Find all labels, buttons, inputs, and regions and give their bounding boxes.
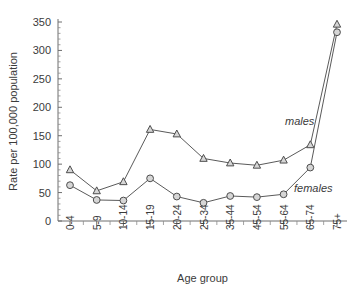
chart-container: 050100150200250300350 0-45-910-1415-1920… <box>0 0 362 289</box>
data-point-females-75+ <box>334 29 341 36</box>
y-axis-tick-label: 300 <box>33 44 51 56</box>
line-chart: 050100150200250300350 0-45-910-1415-1920… <box>0 0 362 289</box>
y-axis-tick-label: 250 <box>33 73 51 85</box>
x-axis-tick-label: 25-34 <box>199 204 210 230</box>
data-point-females-65-74 <box>307 164 314 171</box>
series-label-females: females <box>294 182 333 194</box>
data-point-females-45-54 <box>254 194 261 201</box>
x-axis-tick-label: 10-14 <box>118 204 129 230</box>
data-point-males-55-64 <box>280 156 287 163</box>
data-point-females-25-34 <box>200 199 207 206</box>
data-point-females-10-14 <box>120 197 127 204</box>
data-point-females-0-4 <box>67 182 74 189</box>
y-axis-tick-label: 50 <box>39 187 51 199</box>
x-axis-tick-label: 35-44 <box>225 204 236 230</box>
series-line-males <box>70 24 337 191</box>
data-point-females-35-44 <box>227 193 234 200</box>
x-axis-tick-label: 75+ <box>332 213 343 230</box>
data-point-males-10-14 <box>120 178 127 185</box>
x-axis-title: Age group <box>177 272 228 284</box>
data-point-males-65-74 <box>307 141 314 148</box>
x-axis-tick-label: 20-24 <box>172 204 183 230</box>
data-point-males-0-4 <box>66 166 73 173</box>
y-axis-title: Rate per 100,000 population <box>7 52 19 191</box>
x-axis-tick-label: 55-64 <box>279 204 290 230</box>
data-point-males-15-19 <box>146 125 153 132</box>
series-layer <box>66 20 340 206</box>
annotation-layer: malesfemales <box>285 115 333 194</box>
x-axis-tick-label: 0-4 <box>65 215 76 230</box>
y-axis-tick-label: 150 <box>33 130 51 142</box>
x-axis: 0-45-910-1415-1920-2425-3435-4445-5455-6… <box>58 204 347 230</box>
x-axis-tick-label: 5-9 <box>92 215 103 230</box>
series-label-males: males <box>285 115 315 127</box>
y-axis: 050100150200250300350 <box>33 16 62 227</box>
y-axis-tick-label: 0 <box>45 215 51 227</box>
data-point-females-5-9 <box>93 197 100 204</box>
y-axis-tick-label: 350 <box>33 16 51 28</box>
y-axis-tick-label: 100 <box>33 158 51 170</box>
data-point-females-15-19 <box>147 175 154 182</box>
data-point-males-75+ <box>333 20 340 27</box>
data-point-females-20-24 <box>173 193 180 200</box>
x-axis-tick-label: 45-54 <box>252 204 263 230</box>
x-axis-tick-label: 65-74 <box>305 204 316 230</box>
y-axis-tick-label: 200 <box>33 101 51 113</box>
data-point-females-55-64 <box>280 191 287 198</box>
x-axis-tick-label: 15-19 <box>145 204 156 230</box>
